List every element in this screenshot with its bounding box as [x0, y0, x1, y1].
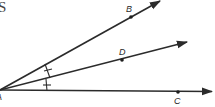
ray-ad	[0, 42, 187, 90]
point-d	[120, 58, 124, 62]
label-d: D	[119, 47, 126, 57]
congruence-mark-lower	[43, 79, 51, 91]
congruence-mark-upper	[44, 64, 52, 78]
label-a: A	[0, 92, 2, 102]
label-b: B	[126, 4, 132, 14]
point-c	[176, 90, 180, 94]
angle-bisector-diagram: S B D C A	[0, 0, 215, 107]
point-b	[129, 15, 133, 19]
ray-ac	[0, 90, 212, 92]
heading-fragment: S	[0, 0, 6, 15]
ray-ab	[0, 1, 160, 90]
label-c: C	[174, 96, 181, 106]
